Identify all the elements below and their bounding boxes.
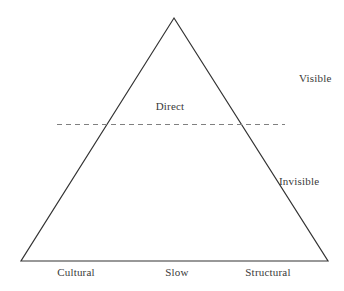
label-cultural: Cultural (57, 266, 95, 278)
label-invisible: Invisible (279, 175, 319, 187)
label-slow: Slow (165, 266, 188, 278)
label-direct: Direct (156, 100, 185, 112)
label-structural: Structural (245, 266, 290, 278)
label-visible: Visible (299, 72, 332, 84)
triangle-outline (21, 18, 328, 261)
violence-triangle-figure: Visible Direct Invisible Cultural Slow S… (0, 0, 344, 291)
triangle-diagram-canvas (0, 0, 344, 291)
